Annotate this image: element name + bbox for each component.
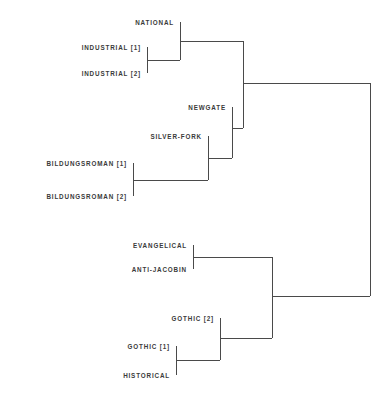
leaf-label-anti_jacobin: ANTI-JACOBIN [0, 266, 187, 273]
leaf-label-industrial_2: INDUSTRIAL [2] [0, 70, 141, 77]
leaf-label-newgate: NEWGATE [0, 104, 226, 111]
leaf-label-bildungsroman_2: BILDUNGSROMAN [2] [0, 193, 127, 200]
leaf-label-gothic_2: GOTHIC [2] [0, 315, 214, 322]
leaf-label-silver_fork: SILVER-FORK [0, 133, 202, 140]
leaf-label-evangelical: EVANGELICAL [0, 242, 187, 249]
leaf-label-industrial_1: INDUSTRIAL [1] [0, 44, 141, 51]
leaf-label-bildungsroman_1: BILDUNGSROMAN [1] [0, 160, 127, 167]
leaf-label-national: NATIONAL [0, 19, 174, 26]
dendrogram-line-group [133, 22, 370, 375]
dendrogram-chart: NATIONALINDUSTRIAL [1]INDUSTRIAL [2]NEWG… [0, 0, 392, 395]
leaf-label-historical: HISTORICAL [0, 372, 170, 379]
leaf-label-gothic_1: GOTHIC [1] [0, 343, 170, 350]
